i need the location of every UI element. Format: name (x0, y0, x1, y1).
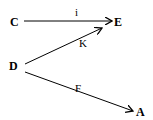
node-a: A (136, 106, 145, 118)
edges-layer (0, 0, 153, 120)
edge-label-f: F (75, 83, 81, 94)
directed-graph-diagram: C E D A i K F (0, 0, 153, 120)
edge-label-i: i (75, 7, 78, 18)
node-c: C (10, 16, 19, 28)
edge-label-k: K (79, 38, 87, 49)
node-d: D (9, 60, 18, 72)
edge-d-to-e (25, 28, 102, 64)
node-e: E (114, 16, 122, 28)
